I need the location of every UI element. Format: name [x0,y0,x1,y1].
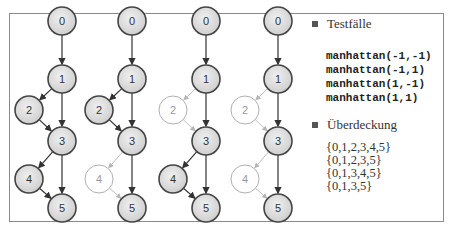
edge-3-4 [255,152,269,168]
testcase-list: manhattan(-1,-1) manhattan(-1,1) manhatt… [312,49,447,105]
node-label: 4 [26,173,32,185]
node-label: 5 [275,202,281,214]
node-label: 1 [59,73,65,85]
coverage-heading: Überdeckung [312,117,447,133]
legend: Testfälle manhattan(-1,-1) manhattan(-1,… [312,14,447,193]
node-label: 3 [275,135,281,147]
node-label: 2 [96,104,102,116]
bullet-icon [312,122,318,128]
testcase-item: manhattan(-1,1) [326,63,447,77]
coverage-item: {0,1,3,5} [326,180,447,193]
node-label: 4 [96,173,102,185]
coverage-list: {0,1,2,3,4,5} {0,1,2,3,5} {0,1,3,4,5} {0… [312,141,447,193]
graph-3: 012345 [231,7,292,222]
node-label: 0 [129,15,135,27]
node-label: 1 [203,73,209,85]
edge-3-4 [183,152,197,168]
graph-2: 012345 [159,7,220,222]
node-label: 4 [242,173,248,185]
node-label: 5 [129,202,135,214]
coverage-label: Überdeckung [327,117,397,133]
node-label: 3 [203,135,209,147]
edge-2-3 [109,120,121,131]
edge-1-2 [110,89,122,100]
node-label: 1 [129,73,135,85]
edge-2-3 [255,120,267,131]
node-label: 0 [59,15,65,27]
testcases-heading: Testfälle [312,16,447,32]
node-label: 2 [170,104,176,116]
edge-2-3 [39,120,51,131]
edge-4-5 [184,188,195,198]
edge-1-2 [256,89,268,100]
testcase-item: manhattan(1,1) [326,91,447,105]
edge-4-5 [40,188,51,198]
testcases-label: Testfälle [327,16,372,32]
node-label: 5 [59,202,65,214]
edge-1-2 [40,89,52,100]
edge-4-5 [256,188,267,198]
node-label: 4 [170,173,176,185]
edge-1-2 [184,89,196,100]
node-label: 2 [26,104,32,116]
bullet-icon [312,21,318,27]
node-label: 0 [203,15,209,27]
edge-4-5 [110,188,121,198]
edge-2-3 [183,120,195,131]
edge-3-4 [109,152,123,168]
graph-0: 012345 [15,7,76,222]
testcase-item: manhattan(1,-1) [326,77,447,91]
node-label: 5 [203,202,209,214]
testcase-item: manhattan(-1,-1) [326,49,447,63]
edge-3-4 [39,152,53,168]
node-label: 2 [242,104,248,116]
node-label: 0 [275,15,281,27]
node-label: 3 [59,135,65,147]
node-label: 3 [129,135,135,147]
node-label: 1 [275,73,281,85]
graph-1: 012345 [85,7,146,222]
